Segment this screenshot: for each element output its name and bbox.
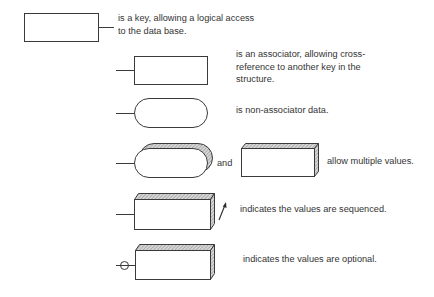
sequence-arrow-icon: [219, 202, 227, 220]
and-conjunction: and: [217, 157, 232, 170]
key-description-line-2: to the data base.: [118, 25, 254, 38]
optional-circle-icon: [116, 262, 136, 270]
associator-symbol: [116, 57, 208, 85]
associator-description: is an associator, allowing cross- refere…: [236, 48, 365, 86]
multiple-values-description-line-1: allow multiple values.: [327, 155, 414, 168]
key-description: is a key, allowing a logical access to t…: [118, 12, 254, 37]
associator-description-line-3: structure.: [236, 73, 365, 86]
multiple-value-oval-symbol: [116, 144, 213, 178]
sequenced-box-symbol: [116, 194, 215, 230]
non-associator-symbol: [116, 99, 208, 128]
non-associator-description: is non-associator data.: [236, 104, 328, 117]
multiple-value-box-symbol: [242, 144, 319, 177]
sequenced-description: indicates the values are sequenced.: [240, 203, 387, 216]
associator-description-line-2: reference to another key in the: [236, 61, 365, 74]
multiple-values-description: allow multiple values.: [327, 155, 414, 168]
optional-box-symbol: [116, 245, 215, 280]
optional-description-line-1: indicates the values are optional.: [243, 253, 377, 266]
key-description-line-1: is a key, allowing a logical access: [118, 12, 254, 25]
non-associator-description-line-1: is non-associator data.: [236, 104, 328, 117]
optional-description: indicates the values are optional.: [243, 253, 377, 266]
associator-description-line-1: is an associator, allowing cross-: [236, 48, 365, 61]
sequenced-description-line-1: indicates the values are sequenced.: [240, 203, 387, 216]
key-symbol: [25, 14, 115, 42]
